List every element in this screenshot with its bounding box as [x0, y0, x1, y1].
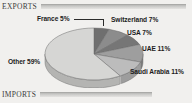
slice-label-france: France 5%	[37, 15, 70, 22]
slice-label-switzerland: Switzerland 7%	[111, 16, 158, 23]
section-rule-exports	[41, 4, 186, 9]
slice-label-saudi-arabia: Saudi Arabia 11%	[130, 68, 184, 75]
france-leader-line-vertical	[103, 19, 104, 26]
section-title-exports: EXPORTS	[0, 2, 37, 11]
section-header-imports: IMPORTS	[0, 88, 192, 101]
slice-label-uae: UAE 11%	[142, 45, 170, 52]
section-header-exports: EXPORTS	[0, 0, 192, 13]
slice-label-usa: USA 7%	[127, 29, 152, 36]
section-rule-imports	[40, 92, 152, 97]
chart-canvas: EXPORTS France 5% Switzerland 7% USA 7% …	[0, 0, 192, 103]
section-title-imports: IMPORTS	[0, 90, 36, 99]
france-leader-line-horizontal	[74, 19, 104, 20]
slice-label-other: Other 59%	[8, 58, 40, 65]
